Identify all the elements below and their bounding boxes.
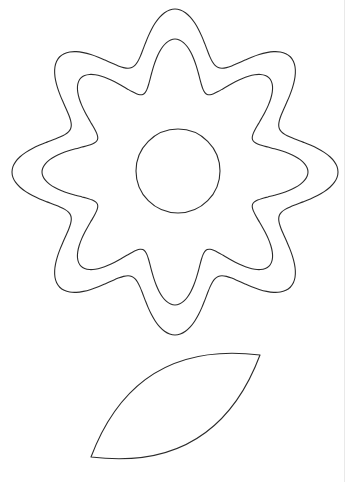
flower-line-drawing (0, 0, 348, 482)
coloring-page-canvas (0, 0, 348, 482)
right-edge-rule (344, 0, 345, 482)
